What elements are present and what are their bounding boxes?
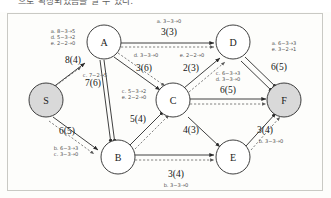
flow-label-A-B: 7(6) [85, 78, 101, 89]
node-D[interactable]: D [216, 25, 250, 59]
augmentation-label-S-B-0: b. 6−3→3 [54, 145, 79, 151]
node-A[interactable]: A [87, 25, 121, 59]
node-label-A: A [100, 37, 108, 48]
flow-label-C-D: 2(3) [183, 63, 199, 74]
edge-labels-B-E: 3(4)b. 3−3→0 [164, 169, 189, 188]
node-label-S: S [43, 95, 49, 106]
edge-B-E [135, 155, 214, 160]
network-flow-diagram: ADSCFBE 8(4)a. 8−3→5d. 5−3→2e. 2−2→03(3)… [8, 14, 322, 190]
edge-labels-S-B: 6(5)b. 6−3→3c. 3−3→0 [54, 126, 79, 157]
augmentation-label-A-D-0: a. 3−3→0 [157, 18, 182, 24]
page-root: 으로 확장되었음을 알 수 있다. [0, 0, 331, 198]
augmentation-label-E-F-0: b. 3−3→0 [259, 138, 284, 144]
augmentation-label-D-F-0: a. 6−3→3 [272, 40, 297, 46]
augmentation-label-A-B-0: c. 7−2→5 [83, 72, 107, 78]
augmentation-label-C-F-0: c. 6−3→3 [216, 70, 240, 76]
augmentation-label-C-F-1: d. 3−3→0 [216, 76, 241, 82]
augmentation-label-B-C-0: c. 5−3→2 [122, 88, 146, 94]
node-label-C: C [170, 95, 177, 106]
augmentation-label-D-F-1: e. 3−2→1 [272, 46, 297, 52]
flow-label-D-F: 6(5) [271, 62, 287, 73]
augmentation-label-S-A-0: a. 8−3→5 [51, 28, 76, 34]
edge-labels-A-C: 3(6)d. 3−3→0 [134, 52, 159, 74]
edge-labels-C-F: 6(5)c. 6−3→3d. 3−3→0 [216, 70, 241, 96]
edge-A-D [121, 43, 214, 47]
node-C[interactable]: C [156, 83, 190, 117]
figure-container: ADSCFBE 8(4)a. 8−3→5d. 5−3→2e. 2−2→03(3)… [7, 13, 323, 191]
flow-label-C-F: 6(5) [220, 85, 236, 96]
node-S[interactable]: S [29, 83, 63, 117]
flow-label-E-F: 3(4) [257, 125, 273, 136]
node-label-D: D [229, 37, 236, 48]
flow-label-A-D: 3(3) [161, 27, 177, 38]
edge-labels-E-F: 3(4)b. 3−3→0 [257, 125, 283, 144]
augmentation-label-S-B-1: c. 3−3→0 [54, 151, 78, 157]
node-B[interactable]: B [101, 140, 135, 174]
flow-label-A-C: 3(6) [136, 63, 152, 74]
header-strip: 으로 확장되었음을 알 수 있다. [0, 0, 331, 12]
edge-labels-C-D: 2(3)e. 2−2→0 [180, 52, 205, 74]
flow-label-B-E: 3(4) [168, 169, 184, 180]
flow-label-B-C: 5(4) [130, 114, 146, 125]
flow-label-S-A: 8(4) [65, 55, 81, 66]
edge-labels-A-D: 3(3)a. 3−3→0 [157, 18, 182, 38]
augmentation-label-C-D-0: e. 2−2→0 [180, 52, 205, 58]
edge-labels-B-C: 5(4)c. 5−3→2e. 2−2→0 [122, 88, 147, 125]
header-text: 으로 확장되었음을 알 수 있다. [18, 0, 133, 7]
edge-C-F [190, 99, 266, 104]
edge-labels-S-A: 8(4)a. 8−3→5d. 5−3→2e. 2−2→0 [51, 28, 81, 66]
flow-label-S-B: 6(5) [59, 126, 75, 137]
augmentation-label-B-E-0: b. 3−3→0 [164, 182, 189, 188]
node-label-F: F [281, 95, 287, 106]
flow-label-C-E: 4(3) [183, 125, 199, 136]
node-E[interactable]: E [216, 140, 250, 174]
edge-labels-C-E: 4(3) [183, 125, 199, 136]
node-label-E: E [230, 152, 236, 163]
node-F[interactable]: F [267, 83, 301, 117]
node-label-B: B [115, 152, 122, 163]
augmentation-label-B-C-1: e. 2−2→0 [122, 94, 147, 100]
augmentation-label-S-A-2: e. 2−2→0 [51, 40, 76, 46]
augmentation-label-A-C-0: d. 3−3→0 [134, 52, 159, 58]
augmentation-label-S-A-1: d. 5−3→2 [51, 34, 76, 40]
edge-labels-D-F: 6(5)a. 6−3→3e. 3−2→1 [271, 40, 296, 73]
